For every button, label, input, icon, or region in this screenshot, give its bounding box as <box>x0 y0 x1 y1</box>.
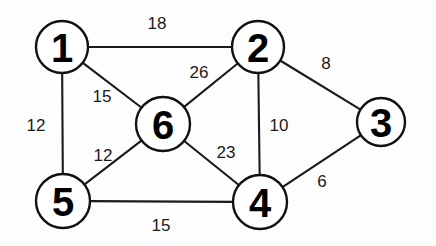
node-label-3: 3 <box>370 101 392 145</box>
graph-node-2: 2 <box>232 21 284 73</box>
graph-node-3: 3 <box>357 98 405 146</box>
graph-node-6: 6 <box>136 97 190 151</box>
edge-weight-1-2: 18 <box>148 14 167 33</box>
edge-weight-6-4: 23 <box>217 143 236 162</box>
graph-edge-1-6 <box>82 62 142 108</box>
edge-weight-2-3: 8 <box>321 54 330 73</box>
node-label-2: 2 <box>247 26 269 70</box>
edge-weight-1-5: 12 <box>27 116 46 135</box>
edge-weight-5-4: 15 <box>152 216 171 235</box>
edge-weight-2-4: 10 <box>270 116 289 135</box>
node-label-6: 6 <box>152 103 174 147</box>
node-label-1: 1 <box>51 26 73 70</box>
graph-edge-2-4 <box>258 72 259 176</box>
nodes-layer: 123456 <box>36 21 405 229</box>
graph-canvas: 123456 181512268101223156 <box>0 0 436 246</box>
graph-edge-6-5 <box>84 140 143 185</box>
graph-edge-1-5 <box>62 72 63 175</box>
graph-node-4: 4 <box>233 175 287 229</box>
graph-edge-5-4 <box>89 201 234 202</box>
edge-weight-2-6: 26 <box>190 63 209 82</box>
edge-weight-6-5: 12 <box>94 146 113 165</box>
node-label-5: 5 <box>52 180 74 224</box>
edge-weight-1-6: 15 <box>93 87 112 106</box>
graph-node-1: 1 <box>36 21 88 73</box>
graph-diagram: 123456 181512268101223156 <box>0 0 436 246</box>
node-label-4: 4 <box>249 181 272 225</box>
edge-weight-4-3: 6 <box>317 172 326 191</box>
graph-node-5: 5 <box>36 174 90 228</box>
